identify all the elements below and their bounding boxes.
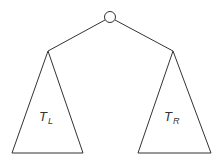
left-subtree-label-subscript: L xyxy=(48,116,53,126)
right-subtree-triangle xyxy=(138,51,211,153)
edge-root-to-left-subtree xyxy=(48,20,105,51)
right-subtree: T R xyxy=(138,51,211,153)
left-subtree-triangle xyxy=(12,51,83,153)
left-subtree-label-main: T xyxy=(39,109,48,124)
right-subtree-label-main: T xyxy=(164,109,173,124)
right-subtree-label-subscript: R xyxy=(173,116,180,126)
left-subtree: T L xyxy=(12,51,83,153)
left-subtree-label: T xyxy=(39,109,48,124)
edge-root-to-right-subtree xyxy=(115,20,173,51)
binary-tree-diagram: T L T R xyxy=(0,0,222,162)
root-node xyxy=(105,12,116,23)
right-subtree-label: T xyxy=(164,109,173,124)
